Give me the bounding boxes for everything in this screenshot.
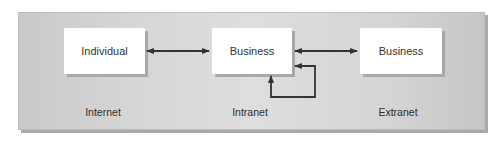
zone-label-internet: Internet: [85, 106, 121, 118]
connector-arrows: [0, 0, 503, 143]
zone-label-extranet: Extranet: [378, 106, 417, 118]
zone-label-intranet: Intranet: [232, 106, 268, 118]
intranet-loop-arrow: [271, 66, 315, 97]
